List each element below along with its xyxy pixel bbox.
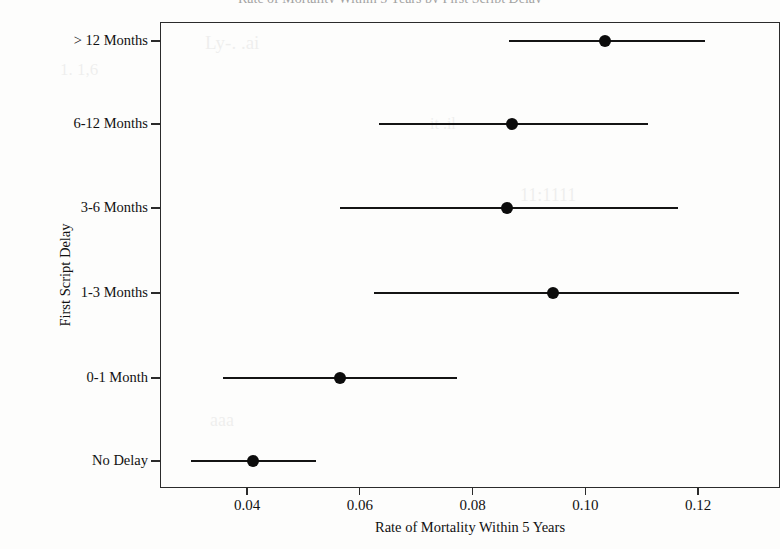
estimate-marker	[334, 372, 346, 384]
x-axis-label-1: 0.06	[325, 497, 395, 514]
y-axis-tick	[151, 460, 160, 461]
x-axis-label-2: 0.08	[438, 497, 508, 514]
x-axis-tick	[246, 488, 247, 495]
estimate-marker	[599, 35, 611, 47]
y-axis-tick	[151, 292, 160, 293]
y-axis-tick	[151, 40, 160, 41]
x-axis-label-3: 0.10	[550, 497, 620, 514]
plot-area	[160, 22, 780, 488]
y-axis-label-1: 6-12 Months	[73, 116, 148, 130]
x-axis-tick	[697, 488, 698, 495]
x-axis-label-4: 0.12	[663, 497, 733, 514]
x-axis-tick	[359, 488, 360, 495]
estimate-marker	[547, 287, 559, 299]
y-axis-label-4: 0-1 Month	[86, 370, 148, 384]
x-axis-tick	[585, 488, 586, 495]
y-axis-label-3: 1-3 Months	[81, 285, 148, 299]
x-axis-title: Rate of Mortality Within 5 Years	[160, 519, 780, 536]
y-axis-tick	[151, 123, 160, 124]
x-axis-tick	[472, 488, 473, 495]
y-axis-label-2: 3-6 Months	[81, 200, 148, 214]
mortality-forest-plot: Rate of Mortality Within 5 Years by Firs…	[0, 0, 780, 549]
x-axis-label-0: 0.04	[212, 497, 282, 514]
y-axis-title: First Script Delay	[57, 223, 74, 326]
estimate-marker	[247, 455, 259, 467]
y-axis-label-0: > 12 Months	[74, 33, 148, 47]
y-axis-label-5: No Delay	[92, 453, 148, 467]
y-axis-tick	[151, 207, 160, 208]
chart-title: Rate of Mortality Within 5 Years by Firs…	[0, 0, 780, 3]
y-axis-tick	[151, 377, 160, 378]
chart-title-clip: Rate of Mortality Within 5 Years by Firs…	[0, 0, 780, 3]
estimate-marker	[506, 118, 518, 130]
ghost-text-0: 1. 1,6	[60, 60, 98, 80]
